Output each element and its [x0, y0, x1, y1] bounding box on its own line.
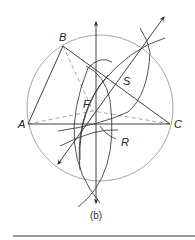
label-b: B	[59, 31, 66, 43]
side-bc	[63, 46, 170, 124]
label-a: A	[17, 118, 25, 130]
geometric-construction-diagram: A B C F S R (b)	[0, 0, 195, 240]
r-pointer	[100, 126, 116, 139]
label-r: R	[121, 136, 129, 148]
side-ab	[28, 46, 63, 124]
dashed-lines	[28, 46, 170, 124]
label-c: C	[174, 118, 182, 130]
circumcircle	[27, 35, 173, 181]
label-s: S	[123, 75, 131, 87]
figure-caption: (b)	[90, 210, 102, 221]
